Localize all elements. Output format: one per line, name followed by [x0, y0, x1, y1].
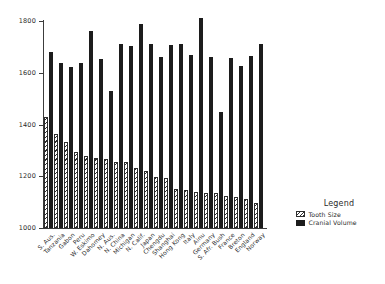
x-axis-tick-labels: S. Aus.TanzaniaGabonPeruW. EskimoDahomey…: [44, 229, 274, 284]
bar-tooth-size: [84, 21, 88, 228]
bar-cranial-volume: [59, 21, 63, 228]
bar-tooth-size: [44, 21, 48, 228]
bar-tooth-size: [114, 21, 118, 228]
bar-cranial-volume: [129, 21, 133, 228]
bar-cranial-volume: [159, 21, 163, 228]
y-axis-tick-label: 1000: [19, 224, 36, 232]
bar-rect: [74, 152, 78, 228]
bar-cranial-volume: [49, 21, 53, 228]
bar-cranial-volume: [79, 21, 83, 228]
bar-tooth-size: [124, 21, 128, 228]
bar-rect: [159, 57, 163, 228]
bar-cranial-volume: [209, 21, 213, 228]
bar-tooth-size: [214, 21, 218, 228]
bar-tooth-size: [64, 21, 68, 228]
bar-rect: [124, 162, 128, 228]
bar-cranial-volume: [239, 21, 243, 228]
bar-rect: [59, 63, 63, 228]
legend-item-cranial-volume: Cranial Volume: [296, 219, 382, 226]
bar-rect: [154, 177, 158, 228]
bar-cranial-volume: [89, 21, 93, 228]
bar-tooth-size: [184, 21, 188, 228]
bar-rect: [99, 59, 103, 228]
bar-rect: [204, 193, 208, 228]
bar-rect: [199, 18, 203, 228]
bar-tooth-size: [254, 21, 258, 228]
legend-label-cranial-volume: Cranial Volume: [309, 219, 357, 226]
bar-rect: [69, 67, 73, 228]
bar-cranial-volume: [229, 21, 233, 228]
legend-item-tooth-size: Tooth Size: [296, 211, 382, 218]
legend-swatch-cranial-volume-icon: [296, 220, 305, 226]
bar-rect: [164, 178, 168, 228]
bar-cranial-volume: [119, 21, 123, 228]
bar-chart: 10001200140016001800 S. Aus.TanzaniaGabo…: [0, 0, 385, 284]
bar-rect: [139, 24, 143, 228]
bar-rect: [129, 46, 133, 228]
bar-tooth-size: [244, 21, 248, 228]
bar-rect: [234, 197, 238, 228]
bar-rect: [64, 142, 68, 228]
plot-area: [44, 21, 264, 228]
bar-rect: [194, 192, 198, 228]
bar-rect: [169, 45, 173, 228]
bar-rect: [114, 162, 118, 228]
bar-cranial-volume: [219, 21, 223, 228]
bar-cranial-volume: [139, 21, 143, 228]
bar-tooth-size: [234, 21, 238, 228]
bar-rect: [244, 199, 248, 228]
bar-tooth-size: [224, 21, 228, 228]
y-axis-tick-labels: 10001200140016001800: [0, 0, 38, 284]
bar-rect: [79, 63, 83, 228]
bar-rect: [44, 117, 48, 228]
bar-rect: [209, 57, 213, 228]
bar-tooth-size: [134, 21, 138, 228]
bar-cranial-volume: [249, 21, 253, 228]
bar-rect: [229, 58, 233, 228]
bar-rect: [84, 156, 88, 228]
bar-rect: [179, 44, 183, 228]
bar-rect: [134, 168, 138, 228]
bar-cranial-volume: [99, 21, 103, 228]
bar-tooth-size: [74, 21, 78, 228]
bar-rect: [249, 56, 253, 228]
y-axis-tick-label: 1200: [19, 172, 36, 180]
legend-swatch-tooth-size-icon: [296, 211, 305, 217]
bar-rect: [144, 171, 148, 228]
bar-rect: [94, 158, 98, 228]
bar-tooth-size: [154, 21, 158, 228]
bar-cranial-volume: [189, 21, 193, 228]
bar-rect: [254, 203, 258, 228]
bar-rect: [174, 189, 178, 228]
bar-cranial-volume: [179, 21, 183, 228]
legend: Legend Tooth Size Cranial Volume: [296, 199, 382, 228]
bar-rect: [219, 112, 223, 228]
bar-rect: [89, 31, 93, 228]
bar-cranial-volume: [169, 21, 173, 228]
bar-rect: [189, 55, 193, 228]
legend-label-tooth-size: Tooth Size: [309, 211, 341, 218]
bar-cranial-volume: [259, 21, 263, 228]
bar-tooth-size: [94, 21, 98, 228]
bar-tooth-size: [144, 21, 148, 228]
bar-rect: [184, 190, 188, 228]
bar-cranial-volume: [69, 21, 73, 228]
bar-tooth-size: [204, 21, 208, 228]
bar-tooth-size: [104, 21, 108, 228]
bar-tooth-size: [54, 21, 58, 228]
bar-rect: [49, 52, 53, 228]
bar-rect: [239, 66, 243, 228]
bar-rect: [109, 91, 113, 228]
bar-rect: [54, 134, 58, 228]
bar-cranial-volume: [199, 21, 203, 228]
y-axis-tick-label: 1800: [19, 17, 36, 25]
bar-tooth-size: [194, 21, 198, 228]
y-axis-tick-label: 1600: [19, 69, 36, 77]
bar-cranial-volume: [149, 21, 153, 228]
bar-tooth-size: [164, 21, 168, 228]
y-axis-tick-label: 1400: [19, 121, 36, 129]
bar-tooth-size: [174, 21, 178, 228]
bar-cranial-volume: [109, 21, 113, 228]
bar-rect: [224, 196, 228, 228]
bar-rect: [214, 193, 218, 228]
